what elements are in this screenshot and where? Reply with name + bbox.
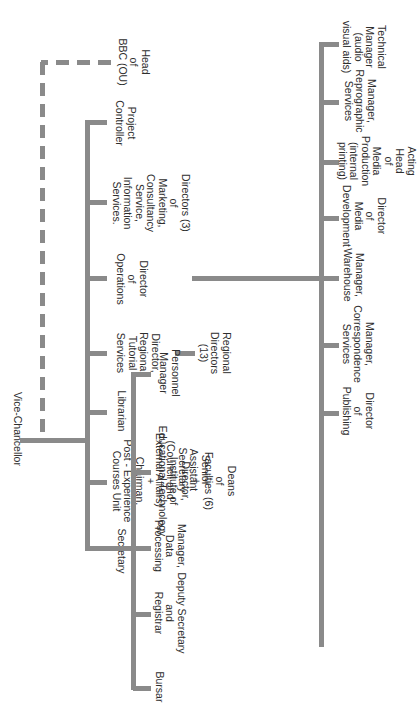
drop-directors3 xyxy=(87,200,107,205)
node-publishing: Director of Publishing xyxy=(341,380,376,442)
main-bus xyxy=(85,120,90,551)
node-regional-directors: Regional Directors (13) xyxy=(198,322,233,384)
node-deputy-secretary: Deputy Secretary and Registrar xyxy=(153,570,188,656)
node-director-operations: Director of Operations xyxy=(115,248,150,310)
drop-tech xyxy=(321,42,339,47)
drop-dataproc xyxy=(133,546,151,551)
org-chart: Vice-Chancellor Head of BBC (OU) Project… xyxy=(0,0,417,706)
drop-deans xyxy=(87,480,107,485)
drop-corresp xyxy=(321,343,339,348)
drop-ops xyxy=(87,276,107,281)
node-bursar: Bursar xyxy=(154,664,166,706)
node-media-development: Director of Media Development xyxy=(341,180,387,252)
drop-mediadev xyxy=(321,216,339,221)
node-head-bbc: Head of BBC (OU) xyxy=(117,24,152,100)
drop-project xyxy=(87,120,107,125)
node-vice-chancellor: Vice-Chancellor xyxy=(12,392,24,502)
drop-bursar xyxy=(133,686,151,691)
node-correspondence: Manager, Correspondence Services xyxy=(341,302,376,386)
ops-stem xyxy=(192,276,322,281)
secretary-stem-v xyxy=(104,546,134,551)
secretary-bus xyxy=(131,372,136,690)
node-senior-assistant: Senior Assistant Secretary (Council and … xyxy=(154,424,212,516)
node-personnel-manager: Personnel Manager xyxy=(158,340,181,406)
node-directors-3: Directors (3) of Marketing, Consultancy … xyxy=(111,164,192,242)
drop-warehouse xyxy=(321,276,339,281)
node-reprographic: Manager, Reprographic Services xyxy=(343,66,378,136)
drop-senior xyxy=(133,470,151,475)
drop-repro xyxy=(321,100,339,105)
node-warehouse: Manager, Warehouse xyxy=(342,244,365,306)
drop-personnel xyxy=(133,372,151,377)
node-secretary: Secretary xyxy=(116,520,128,582)
drop-regional xyxy=(87,351,107,356)
drop-deputy xyxy=(133,612,151,617)
vc-connector xyxy=(20,438,90,443)
dashed-drop-bbc xyxy=(41,60,111,65)
drop-librarian xyxy=(87,410,107,415)
drop-publishing xyxy=(321,411,339,416)
node-project-controller: Project Controller xyxy=(114,92,137,154)
dashed-spine-bbc xyxy=(40,62,45,440)
